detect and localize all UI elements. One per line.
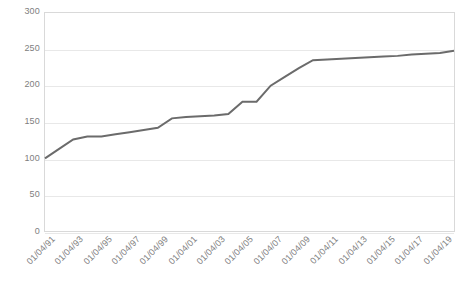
y-tick-label: 50 bbox=[0, 190, 40, 199]
y-tick-label: 0 bbox=[0, 227, 40, 236]
line-chart: 300250200150100500 01/04/9101/04/9301/04… bbox=[0, 0, 467, 285]
x-axis: 01/04/9101/04/9301/04/9501/04/9701/04/99… bbox=[44, 234, 455, 285]
y-tick-label: 250 bbox=[0, 44, 40, 53]
y-tick-label: 300 bbox=[0, 7, 40, 16]
y-axis: 300250200150100500 bbox=[0, 0, 40, 232]
data-series-line bbox=[45, 51, 454, 159]
plot-area bbox=[44, 12, 455, 232]
y-tick-label: 150 bbox=[0, 117, 40, 126]
series-layer bbox=[45, 13, 454, 231]
y-tick-label: 200 bbox=[0, 80, 40, 89]
y-tick-label: 100 bbox=[0, 154, 40, 163]
